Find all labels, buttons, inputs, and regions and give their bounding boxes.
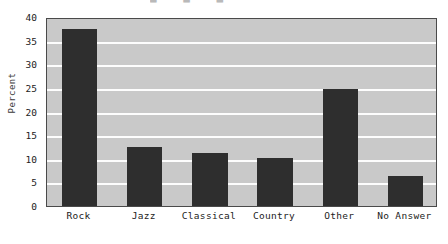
y-tick-label: 5 [31, 179, 37, 189]
y-tick-label: 25 [26, 84, 37, 94]
bar [323, 89, 358, 206]
bar [388, 176, 423, 206]
bars-group [47, 19, 436, 206]
x-tick-label: No Answer [377, 210, 431, 221]
y-tick-label: 10 [26, 155, 37, 165]
y-tick-label: 20 [26, 108, 37, 118]
x-tick-label: Country [253, 210, 295, 221]
y-tick-label: 0 [31, 202, 37, 212]
scan-artifact-strip: ■ ■ ■ [150, 0, 330, 7]
x-axis-tick-labels: RockJazzClassicalCountryOtherNo Answer [46, 210, 437, 232]
y-tick-label: 30 [26, 61, 37, 71]
bar [192, 153, 227, 206]
bar [127, 147, 162, 206]
x-tick-label: Rock [67, 210, 91, 221]
x-tick-label: Other [324, 210, 354, 221]
plot-area [46, 18, 437, 207]
y-tick-label: 40 [26, 13, 37, 23]
y-axis-tick-labels: 0510152025303540 [0, 18, 42, 207]
y-tick-label: 15 [26, 131, 37, 141]
x-tick-label: Jazz [132, 210, 156, 221]
x-tick-label: Classical [182, 210, 236, 221]
y-tick-label: 35 [26, 37, 37, 47]
bar-chart: ■ ■ ■ Percent 0510152025303540 RockJazzC… [0, 0, 448, 244]
bar [257, 158, 292, 206]
scan-artifact-text: ■ ■ ■ [150, 0, 330, 2]
bar [62, 29, 97, 206]
